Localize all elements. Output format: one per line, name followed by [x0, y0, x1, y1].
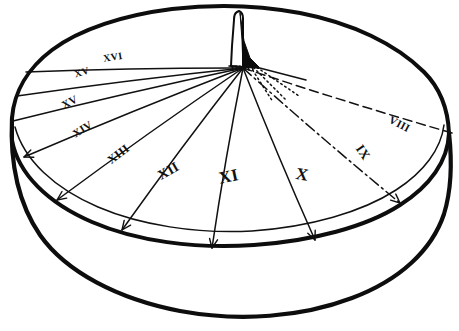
- gnomon-base-tick-1: [232, 66, 233, 70]
- gnomon-base-tick-2: [236, 66, 237, 70]
- gnomon-base-tick-3: [240, 66, 241, 70]
- hour-label-xi-6: XI: [217, 165, 240, 188]
- sundial-drawing: XVIXVXVXIVXIIIXIIXIXIXVIII: [0, 0, 459, 331]
- sundial-figure: XVIXVXVXIVXIIIXIIXIXIXVIII: [0, 0, 459, 331]
- gnomon-base-tick-6: [252, 67, 253, 70]
- gnomon-base-tick-4: [244, 67, 245, 70]
- gnomon-base-tick-5: [248, 67, 249, 70]
